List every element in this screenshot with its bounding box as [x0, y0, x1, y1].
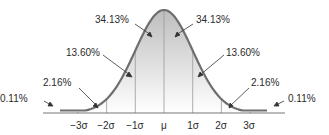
bell-curve-chart — [0, 0, 329, 135]
label-right-13: 13.60% — [226, 47, 260, 58]
label-left-13: 13.60% — [66, 47, 100, 58]
tick-mu: μ — [161, 120, 167, 131]
label-right-2: 2.16% — [251, 77, 279, 88]
tick-minus-1-sigma: −1σ — [126, 120, 144, 131]
tick-minus-2-sigma: −2σ — [97, 120, 115, 131]
tick-plus-3-sigma: 3σ — [243, 120, 255, 131]
label-left-0: 0.11% — [0, 93, 28, 104]
label-right-0: 0.11% — [288, 93, 316, 104]
label-left-34: 34.13% — [95, 14, 129, 25]
tick-minus-3-sigma: −3σ — [70, 120, 88, 131]
label-left-2: 2.16% — [43, 77, 71, 88]
tick-plus-2-sigma: 2σ — [215, 120, 227, 131]
sigma-dividers — [78, 10, 250, 113]
label-right-34: 34.13% — [196, 14, 230, 25]
curve-fill — [60, 10, 267, 113]
tick-plus-1-sigma: 1σ — [187, 120, 199, 131]
